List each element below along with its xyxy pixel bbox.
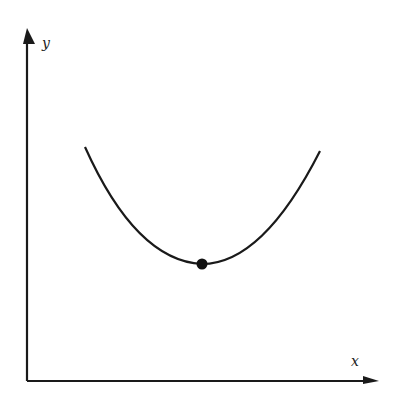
y-axis-arrow-icon — [23, 28, 35, 44]
convex-curve — [85, 147, 320, 264]
minimum-point — [197, 259, 208, 270]
x-axis-arrow-icon — [363, 376, 379, 384]
x-axis-label: x — [351, 353, 359, 369]
diagram-canvas: y x — [0, 0, 394, 396]
y-axis-label: y — [41, 35, 51, 51]
